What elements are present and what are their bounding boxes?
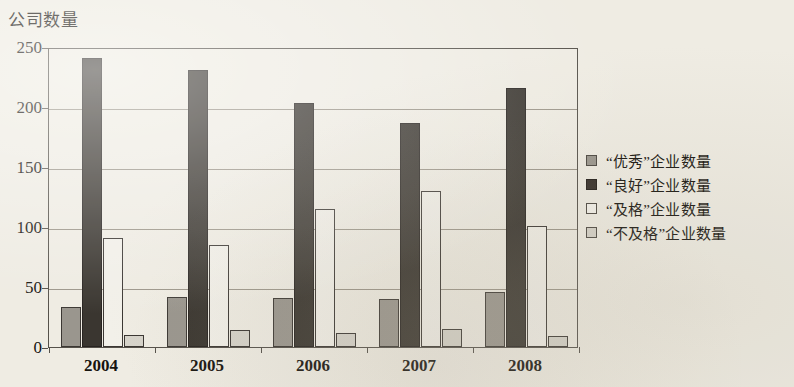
x-tick-mark — [367, 347, 368, 353]
bar[interactable] — [61, 307, 81, 347]
bar[interactable] — [442, 329, 462, 347]
legend-label: “良好”企业数量 — [606, 174, 711, 195]
legend-swatch-icon — [586, 155, 597, 166]
chart-title: 公司数量 — [8, 6, 78, 31]
bar-group — [261, 49, 367, 347]
x-tick-mark — [155, 347, 156, 353]
bar[interactable] — [421, 191, 441, 347]
bar-chart: 公司数量 050100150200250 2004200520062007200… — [0, 0, 794, 387]
bar-group — [155, 49, 261, 347]
bar[interactable] — [273, 298, 293, 347]
legend-item[interactable]: “良好”企业数量 — [586, 172, 726, 196]
y-tick-mark — [42, 348, 48, 349]
bar[interactable] — [230, 330, 250, 347]
bar[interactable] — [485, 292, 505, 347]
bar-group — [473, 49, 579, 347]
bar[interactable] — [379, 299, 399, 347]
bar[interactable] — [167, 297, 187, 347]
y-tick-label: 0 — [2, 339, 42, 356]
legend: “优秀”企业数量“良好”企业数量“及格”企业数量“不及格”企业数量 — [586, 148, 726, 244]
x-tick-label: 2005 — [167, 356, 247, 376]
y-tick-label: 250 — [2, 39, 42, 56]
legend-label: “优秀”企业数量 — [606, 150, 711, 171]
legend-swatch-icon — [586, 179, 597, 190]
x-tick-mark — [473, 347, 474, 353]
x-tick-mark — [261, 347, 262, 353]
x-tick-label: 2007 — [379, 356, 459, 376]
legend-swatch-icon — [586, 203, 597, 214]
x-tick-mark — [579, 347, 580, 353]
legend-label: “及格”企业数量 — [606, 198, 711, 219]
x-tick-mark — [49, 347, 50, 353]
bar[interactable] — [124, 335, 144, 347]
bar[interactable] — [82, 58, 102, 347]
x-tick-label: 2008 — [485, 356, 565, 376]
bar[interactable] — [400, 123, 420, 347]
legend-swatch-icon — [586, 227, 597, 238]
bar[interactable] — [103, 238, 123, 347]
bar[interactable] — [527, 226, 547, 347]
plot-area — [48, 48, 578, 348]
x-tick-label: 2004 — [61, 356, 141, 376]
bar[interactable] — [315, 209, 335, 347]
bar[interactable] — [506, 88, 526, 347]
y-tick-label: 50 — [2, 279, 42, 296]
bar[interactable] — [294, 103, 314, 347]
y-tick-label: 200 — [2, 99, 42, 116]
legend-item[interactable]: “优秀”企业数量 — [586, 148, 726, 172]
bar[interactable] — [336, 333, 356, 347]
bar[interactable] — [548, 336, 568, 347]
y-tick-label: 100 — [2, 219, 42, 236]
bar[interactable] — [188, 70, 208, 347]
legend-label: “不及格”企业数量 — [606, 222, 726, 243]
y-tick-label: 150 — [2, 159, 42, 176]
legend-item[interactable]: “不及格”企业数量 — [586, 220, 726, 244]
legend-item[interactable]: “及格”企业数量 — [586, 196, 726, 220]
bar-group — [49, 49, 155, 347]
bar-group — [367, 49, 473, 347]
x-tick-label: 2006 — [273, 356, 353, 376]
bar[interactable] — [209, 245, 229, 347]
